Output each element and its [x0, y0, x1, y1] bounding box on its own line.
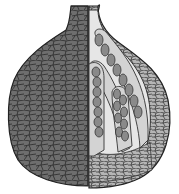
outer-wall	[8, 6, 88, 186]
perithecium-illustration	[0, 0, 179, 194]
perithecium-figure	[0, 0, 179, 194]
